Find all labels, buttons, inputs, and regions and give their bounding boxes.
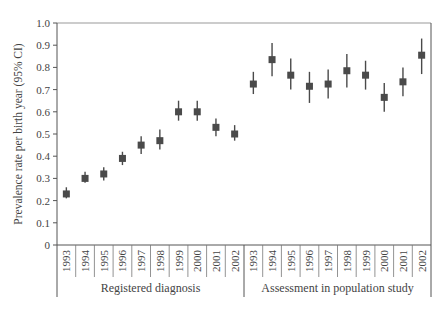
x-tick-label: 1999: [360, 250, 372, 273]
y-tick-label: 0.5: [36, 128, 50, 140]
data-point: [250, 81, 257, 88]
y-tick-label: 0.4: [36, 150, 50, 162]
x-tick-label: 1995: [285, 250, 297, 273]
y-tick-label: 0.9: [36, 39, 50, 51]
x-tick-label: 1994: [79, 250, 91, 273]
data-point: [119, 155, 126, 162]
y-tick-label: 1.0: [36, 17, 50, 29]
x-tick-label: 1999: [173, 250, 185, 273]
x-tick-label: 2001: [210, 250, 222, 272]
data-point: [175, 108, 182, 115]
data-point: [306, 83, 313, 90]
prevalence-chart: 00.10.20.30.40.50.60.70.80.91.0Prevalenc…: [0, 0, 446, 317]
x-tick-label: 1996: [303, 250, 315, 273]
x-tick-label: 2002: [229, 250, 241, 272]
data-point: [156, 137, 163, 144]
data-point: [362, 72, 369, 79]
x-tick-label: 1997: [135, 250, 147, 273]
data-point: [418, 52, 425, 59]
y-tick-label: 0.2: [36, 195, 50, 207]
x-tick-label: 1997: [322, 250, 334, 273]
x-tick-label: 1993: [247, 250, 259, 273]
data-point: [343, 67, 350, 74]
group-label: Assessment in population study: [261, 281, 413, 295]
data-point: [100, 170, 107, 177]
data-point: [82, 175, 89, 182]
y-tick-label: 0.1: [36, 217, 50, 229]
data-point: [138, 142, 145, 149]
y-tick-label: 0.7: [36, 84, 50, 96]
x-tick-label: 2002: [416, 250, 428, 272]
data-point: [381, 94, 388, 101]
data-point: [287, 72, 294, 79]
data-point: [231, 131, 238, 138]
y-tick-label: 0: [45, 239, 51, 251]
y-axis-label: Prevalence rate per birth year (95% CI): [12, 43, 25, 225]
x-tick-label: 1998: [154, 250, 166, 273]
group-label: Registered diagnosis: [101, 281, 201, 295]
x-tick-label: 2000: [191, 250, 203, 273]
y-tick-label: 0.8: [36, 61, 50, 73]
data-point: [63, 190, 70, 197]
x-tick-label: 2001: [397, 250, 409, 272]
x-tick-label: 1995: [98, 250, 110, 273]
x-tick-label: 1998: [341, 250, 353, 273]
data-point: [399, 78, 406, 85]
data-point: [194, 108, 201, 115]
x-tick-label: 2000: [378, 250, 390, 273]
data-point: [269, 56, 276, 63]
y-tick-label: 0.3: [36, 172, 50, 184]
x-tick-label: 1994: [266, 250, 278, 273]
data-point: [212, 124, 219, 131]
x-tick-label: 1996: [116, 250, 128, 273]
x-tick-label: 1993: [60, 250, 72, 273]
data-point: [325, 81, 332, 88]
y-tick-label: 0.6: [36, 106, 50, 118]
chart-canvas: 00.10.20.30.40.50.60.70.80.91.0Prevalenc…: [0, 0, 446, 317]
